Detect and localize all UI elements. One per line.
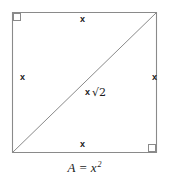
side-label-bottom: x	[80, 140, 85, 149]
diagonal-length-label: x√2	[85, 88, 106, 99]
caption-expression-base: x	[91, 160, 98, 175]
caption-area-symbol: A	[67, 160, 76, 175]
area-caption: A=x2	[0, 160, 169, 176]
side-label-top: x	[80, 15, 85, 24]
radical-sqrt-two: √2	[92, 87, 106, 98]
right-angle-marker-bottom-right	[149, 145, 156, 152]
side-label-right: x	[152, 73, 157, 82]
caption-expression-exponent: 2	[98, 160, 102, 169]
caption-equals: =	[79, 160, 87, 175]
square-diagonal-figure: x x x x x√2 A=x2	[0, 0, 169, 184]
diagonal-line	[13, 13, 157, 153]
diagonal-variable: x	[85, 88, 90, 97]
side-label-left: x	[20, 73, 25, 82]
right-angle-marker-top-left	[14, 14, 21, 21]
